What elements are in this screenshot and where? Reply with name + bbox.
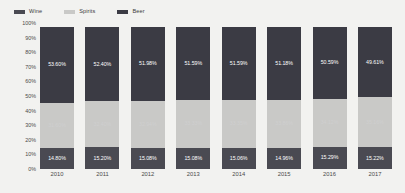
bar-segment-beer[interactable]: 51.98%: [131, 27, 165, 101]
chart-legend: Wine Spirits Beer: [14, 9, 145, 15]
x-tick: 2014: [222, 172, 256, 186]
bar-segment-spirits[interactable]: 35.16%: [358, 97, 392, 147]
y-tick: 40%: [0, 109, 36, 114]
bar-column[interactable]: 50.59%34.12%15.29%: [313, 27, 347, 169]
bar-segment-beer[interactable]: 53.60%: [40, 27, 74, 103]
bar-column[interactable]: 51.98%32.94%15.08%: [131, 27, 165, 169]
bar-segment-wine[interactable]: 14.96%: [267, 148, 301, 169]
bar-segment-wine[interactable]: 15.22%: [358, 147, 392, 169]
bar-segment-wine[interactable]: 15.20%: [85, 147, 119, 169]
y-tick: 100%: [0, 21, 36, 26]
bar-segment-spirits[interactable]: 33.33%: [176, 100, 210, 147]
bar-segment-value: 15.29%: [321, 155, 339, 160]
x-tick: 2016: [313, 172, 347, 186]
bar-segment-value: 15.22%: [366, 156, 384, 161]
bar-segment-beer[interactable]: 49.61%: [358, 27, 392, 97]
legend-label-beer: Beer: [132, 9, 144, 15]
bar-column[interactable]: 51.59%33.33%15.08%: [176, 27, 210, 169]
bar-segment-beer[interactable]: 51.59%: [176, 27, 210, 100]
bar-segment-spirits[interactable]: 34.12%: [313, 99, 347, 147]
plot-area: 53.60%31.60%14.80%52.40%32.40%15.20%51.9…: [40, 27, 392, 169]
x-tick: 2012: [131, 172, 165, 186]
bar-segment-value: 33.33%: [184, 121, 202, 126]
y-tick: 80%: [0, 50, 36, 55]
legend-swatch-icon: [14, 10, 25, 14]
bar-segment-value: 33.35%: [230, 121, 248, 126]
y-tick: 10%: [0, 153, 36, 158]
x-tick: 2010: [40, 172, 74, 186]
legend-item-spirits[interactable]: Spirits: [64, 9, 95, 15]
bar-segment-spirits[interactable]: 33.86%: [267, 100, 301, 148]
bar-segment-value: 34.12%: [321, 120, 339, 125]
y-tick: 70%: [0, 65, 36, 70]
bar-segment-value: 31.60%: [48, 123, 66, 128]
bar-segment-spirits[interactable]: 33.35%: [222, 100, 256, 147]
y-tick: 90%: [0, 36, 36, 41]
legend-item-wine[interactable]: Wine: [14, 9, 42, 15]
bar-segment-wine[interactable]: 15.06%: [222, 148, 256, 169]
stacked-bar-chart: Wine Spirits Beer 100% 90% 80% 70% 60% 5…: [0, 0, 405, 193]
bar-segment-value: 51.98%: [139, 61, 157, 66]
bar-segment-value: 53.60%: [48, 62, 66, 67]
bar-segment-value: 32.94%: [139, 122, 157, 127]
bar-column[interactable]: 52.40%32.40%15.20%: [85, 27, 119, 169]
y-tick: 0%: [0, 167, 36, 172]
x-tick: 2017: [358, 172, 392, 186]
bar-segment-value: 14.96%: [275, 156, 293, 161]
bar-segment-value: 52.40%: [94, 62, 112, 67]
legend-item-beer[interactable]: Beer: [117, 9, 144, 15]
bar-segment-beer[interactable]: 50.59%: [313, 27, 347, 99]
bar-segment-wine[interactable]: 15.08%: [176, 148, 210, 169]
bar-segment-value: 15.08%: [139, 156, 157, 161]
bar-segment-value: 49.61%: [366, 60, 384, 65]
bar-segment-value: 15.08%: [184, 156, 202, 161]
legend-swatch-icon: [64, 10, 75, 14]
bar-column[interactable]: 51.18%33.86%14.96%: [267, 27, 301, 169]
bar-segment-value: 51.59%: [230, 61, 248, 66]
y-tick: 20%: [0, 138, 36, 143]
bar-segment-spirits[interactable]: 32.94%: [131, 101, 165, 148]
bar-column[interactable]: 51.59%33.35%15.06%: [222, 27, 256, 169]
bar-segment-spirits[interactable]: 31.60%: [40, 103, 74, 148]
bar-column[interactable]: 49.61%35.16%15.22%: [358, 27, 392, 169]
bar-segment-spirits[interactable]: 32.40%: [85, 101, 119, 147]
bar-segment-beer[interactable]: 51.59%: [222, 27, 256, 100]
y-axis-labels: 100% 90% 80% 70% 60% 50% 40% 30% 20% 10%…: [0, 24, 36, 170]
legend-swatch-icon: [117, 10, 128, 14]
bar-segment-value: 32.40%: [94, 122, 112, 127]
bar-segment-value: 33.86%: [275, 121, 293, 126]
bar-segment-value: 14.80%: [48, 156, 66, 161]
bar-segment-value: 15.20%: [94, 156, 112, 161]
y-tick: 60%: [0, 80, 36, 85]
bar-segment-beer[interactable]: 52.40%: [85, 27, 119, 101]
bar-segment-wine[interactable]: 14.80%: [40, 148, 74, 169]
bar-group: 53.60%31.60%14.80%52.40%32.40%15.20%51.9…: [40, 27, 392, 169]
bar-segment-wine[interactable]: 15.08%: [131, 148, 165, 169]
x-tick: 2013: [176, 172, 210, 186]
y-tick: 50%: [0, 94, 36, 99]
bar-segment-value: 15.06%: [230, 156, 248, 161]
y-tick: 30%: [0, 123, 36, 128]
x-axis-labels: 2010 2011 2012 2013 2014 2015 2016 2017: [40, 172, 392, 186]
x-tick: 2015: [267, 172, 301, 186]
bar-segment-beer[interactable]: 51.18%: [267, 27, 301, 100]
bar-segment-value: 51.18%: [275, 61, 293, 66]
bar-segment-wine[interactable]: 15.29%: [313, 147, 347, 169]
legend-label-wine: Wine: [29, 9, 42, 15]
bar-column[interactable]: 53.60%31.60%14.80%: [40, 27, 74, 169]
x-tick: 2011: [85, 172, 119, 186]
legend-label-spirits: Spirits: [79, 9, 95, 15]
bar-segment-value: 50.59%: [321, 60, 339, 65]
bar-segment-value: 51.59%: [184, 61, 202, 66]
bar-segment-value: 35.16%: [366, 120, 384, 125]
